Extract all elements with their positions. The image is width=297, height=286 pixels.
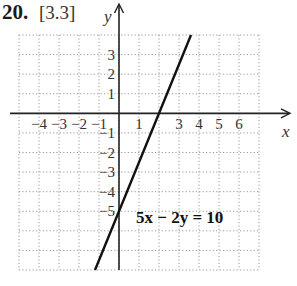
x-tick-label: 4	[195, 116, 203, 132]
coordinate-graph: −4−3−2−113456321−1−2−3−4−5 x y 5x − 2y =…	[0, 0, 297, 286]
y-tick-label: −4	[99, 184, 115, 200]
y-tick-label: −5	[99, 203, 115, 219]
x-axis-label: x	[281, 122, 290, 141]
x-tick-label: −4	[31, 116, 47, 132]
y-tick-label: 1	[108, 86, 116, 102]
y-tick-label: 2	[108, 66, 116, 82]
tick-labels: −4−3−2−113456321−1−2−3−4−5	[31, 47, 243, 220]
x-tick-label: −2	[71, 116, 87, 132]
y-axis-label: y	[102, 7, 112, 26]
x-tick-label: 5	[215, 116, 223, 132]
x-tick-label: −3	[51, 116, 67, 132]
y-tick-label: −3	[99, 164, 115, 180]
y-tick-label: −2	[99, 145, 115, 161]
x-tick-label: 1	[135, 116, 143, 132]
y-tick-label: 3	[108, 47, 116, 63]
equation-label: 5x − 2y = 10	[136, 208, 223, 227]
x-tick-label: 6	[235, 116, 243, 132]
grid	[19, 35, 259, 270]
x-tick-label: 3	[175, 116, 183, 132]
y-tick-label: −1	[99, 125, 115, 141]
